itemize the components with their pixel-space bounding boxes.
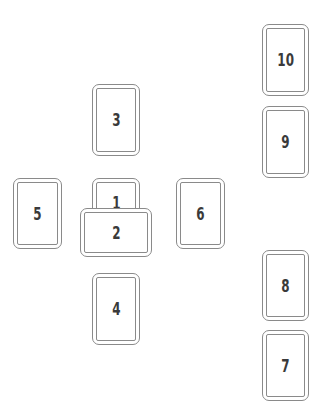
card-2-inner-frame: 2 [84, 212, 148, 253]
card-4-label: 4 [112, 299, 120, 319]
card-2: 2 [80, 208, 152, 257]
card-7: 7 [262, 330, 309, 401]
card-3-inner-frame: 3 [96, 88, 136, 152]
card-9-inner-frame: 9 [266, 110, 305, 174]
card-4-inner-frame: 4 [96, 277, 136, 341]
card-7-inner-frame: 7 [266, 334, 305, 397]
card-6-inner-frame: 6 [180, 182, 221, 245]
card-10: 10 [262, 24, 309, 96]
card-7-label: 7 [281, 356, 289, 376]
card-3: 3 [92, 84, 140, 156]
card-4: 4 [92, 273, 140, 345]
card-2-label: 2 [112, 223, 120, 243]
card-6: 6 [176, 178, 225, 249]
card-5-inner-frame: 5 [17, 182, 58, 245]
card-9: 9 [262, 106, 309, 178]
card-8: 8 [262, 250, 309, 321]
card-10-label: 10 [277, 50, 294, 70]
card-8-inner-frame: 8 [266, 254, 305, 317]
card-5-label: 5 [33, 204, 41, 224]
card-5: 5 [13, 178, 62, 249]
card-10-inner-frame: 10 [266, 28, 305, 92]
card-3-label: 3 [112, 110, 120, 130]
card-8-label: 8 [281, 276, 289, 296]
card-9-label: 9 [281, 132, 289, 152]
card-6-label: 6 [196, 204, 204, 224]
